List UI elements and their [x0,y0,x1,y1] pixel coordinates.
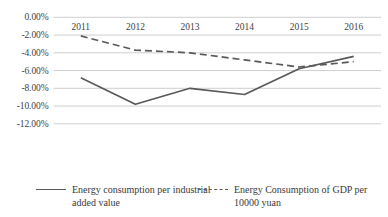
y-axis-tick-label: -4.00% [0,48,49,58]
line-chart: 0.00%-2.00%-4.00%-6.00%-8.00%-10.00%-12.… [0,0,388,217]
series-line-industrial [81,56,354,104]
y-axis-tick-label: -2.00% [0,30,49,40]
y-axis-tick-label: -8.00% [0,83,49,93]
y-axis-tick-label: -12.00% [0,119,49,129]
series-line-gdp [81,36,354,67]
legend-item-industrial[interactable]: Energy consumption per industrial added … [36,184,220,209]
x-axis-tick-label: 2013 [170,22,210,32]
y-axis-tick-label: 0.00% [0,12,49,22]
dashed-line-swatch [198,184,228,196]
chart-legend: Energy consumption per industrial added … [0,182,388,217]
solid-line-swatch [36,184,66,196]
x-axis-tick-label: 2015 [279,22,319,32]
legend-label-gdp: Energy Consumption of GDP per 10000 yuan [234,184,388,209]
legend-item-gdp[interactable]: Energy Consumption of GDP per 10000 yuan [198,184,388,209]
x-axis-tick-label: 2014 [225,22,265,32]
gridlines [54,17,382,124]
x-axis-tick-label: 2012 [115,22,155,32]
y-axis-tick-label: -6.00% [0,66,49,76]
x-axis-tick-label: 2011 [61,22,101,32]
x-axis-tick-label: 2016 [334,22,374,32]
y-axis-tick-label: -10.00% [0,101,49,111]
